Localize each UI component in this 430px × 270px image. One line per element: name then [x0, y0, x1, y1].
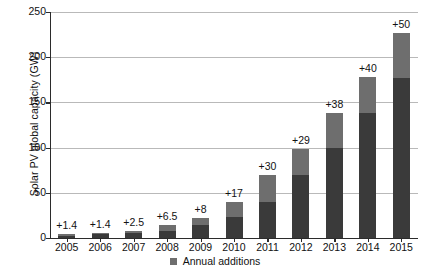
- y-axis-tick-mark: [46, 148, 50, 149]
- bars-container: +1.4+1.4+2.5+6.5+8+17+30+29+38+40+50: [50, 12, 418, 238]
- chart-legend: Annual additions: [0, 255, 430, 267]
- bar-segment-annual-addition: [393, 33, 410, 78]
- y-axis-tick-label: 50: [2, 186, 46, 198]
- y-axis-tick-mark: [46, 12, 50, 13]
- bar-segment-annual-addition: [58, 234, 75, 235]
- bar-segment-annual-addition: [192, 218, 209, 225]
- bar-segment-annual-addition: [259, 175, 276, 202]
- bar-data-label: +29: [271, 134, 331, 146]
- x-axis-tick-mark: [267, 238, 268, 242]
- x-axis-tick-mark: [234, 238, 235, 242]
- bar-group[interactable]: +1.4: [58, 12, 75, 238]
- bar-segment-cumulative: [292, 175, 309, 238]
- y-axis-tick-mark: [46, 193, 50, 194]
- solar-pv-capacity-chart: Solar PV global capacity (GW) 0501001502…: [0, 0, 430, 270]
- x-axis-tick-mark: [67, 238, 68, 242]
- y-axis-tick-mark: [46, 102, 50, 103]
- bar[interactable]: [359, 12, 376, 238]
- bar-segment-annual-addition: [92, 233, 109, 234]
- bar-segment-annual-addition: [359, 77, 376, 113]
- bar-data-label: +17: [204, 187, 264, 199]
- bar-group[interactable]: +17: [226, 12, 243, 238]
- bar-segment-cumulative: [393, 78, 410, 238]
- bar-segment-cumulative: [192, 225, 209, 238]
- bar-segment-cumulative: [159, 231, 176, 238]
- x-axis-tick-mark: [334, 238, 335, 242]
- bar[interactable]: [326, 12, 343, 238]
- bar-data-label: +50: [371, 18, 430, 30]
- bar-segment-annual-addition: [125, 231, 142, 233]
- bar-segment-cumulative: [326, 148, 343, 238]
- bar-segment-cumulative: [259, 202, 276, 238]
- bar[interactable]: [259, 12, 276, 238]
- bar-data-label: +30: [237, 160, 297, 172]
- y-axis-tick-label: 150: [2, 95, 46, 107]
- x-axis-tick-mark: [100, 238, 101, 242]
- bar-data-label: +40: [338, 62, 398, 74]
- bar-segment-annual-addition: [226, 202, 243, 217]
- bar-segment-cumulative: [226, 217, 243, 238]
- x-axis-tick-mark: [401, 238, 402, 242]
- bar[interactable]: [226, 12, 243, 238]
- x-axis-tick-mark: [368, 238, 369, 242]
- bar-group[interactable]: +1.4: [92, 12, 109, 238]
- bar-group[interactable]: +38: [326, 12, 343, 238]
- bar[interactable]: [58, 12, 75, 238]
- x-axis-tick-mark: [134, 238, 135, 242]
- bar-segment-annual-addition: [292, 149, 309, 175]
- bar-data-label: +38: [304, 98, 364, 110]
- y-axis-tick-labels: 050100150200250: [0, 12, 46, 238]
- bar-group[interactable]: +30: [259, 12, 276, 238]
- legend-swatch-annual-additions: [170, 258, 177, 265]
- x-axis-tick-label: 2015: [371, 241, 430, 253]
- bar-segment-annual-addition: [326, 113, 343, 147]
- legend-label-annual-additions: Annual additions: [183, 255, 261, 267]
- bar[interactable]: [92, 12, 109, 238]
- x-axis-tick-mark: [167, 238, 168, 242]
- bar-group[interactable]: +8: [192, 12, 209, 238]
- y-axis-tick-mark: [46, 57, 50, 58]
- x-axis-tick-mark: [201, 238, 202, 242]
- bar-data-label: +8: [171, 203, 231, 215]
- bar-group[interactable]: +2.5: [125, 12, 142, 238]
- bar-segment-cumulative: [359, 113, 376, 238]
- bar[interactable]: [292, 12, 309, 238]
- bar-group[interactable]: +29: [292, 12, 309, 238]
- bar[interactable]: [125, 12, 142, 238]
- bar-group[interactable]: +50: [393, 12, 410, 238]
- bar-segment-annual-addition: [159, 225, 176, 231]
- y-axis-tick-label: 200: [2, 50, 46, 62]
- bar-group[interactable]: +40: [359, 12, 376, 238]
- y-axis-tick-label: 250: [2, 5, 46, 17]
- y-axis-tick-mark: [46, 238, 50, 239]
- y-axis-tick-label: 100: [2, 141, 46, 153]
- x-axis-tick-mark: [301, 238, 302, 242]
- bar[interactable]: [393, 12, 410, 238]
